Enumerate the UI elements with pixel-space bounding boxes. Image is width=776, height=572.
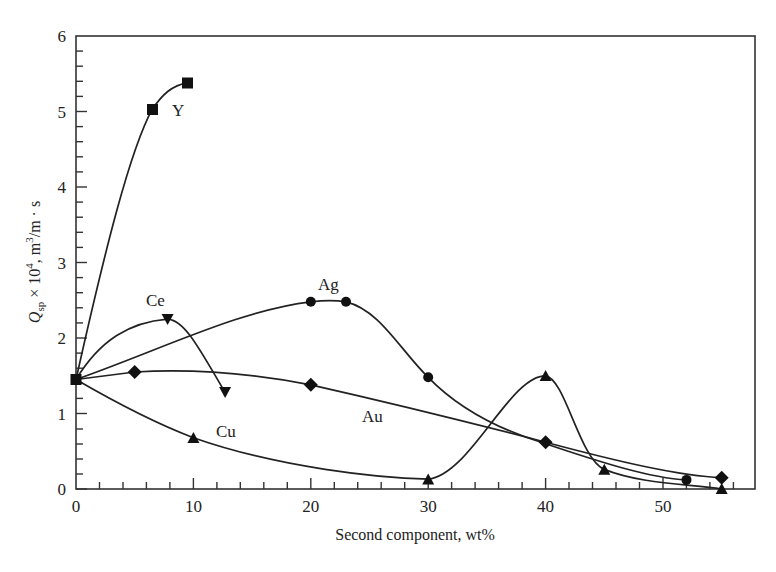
svg-text:20: 20 bbox=[302, 497, 319, 516]
ag-circle-marker bbox=[341, 297, 351, 307]
series-ce-curve bbox=[76, 319, 225, 392]
series-au-curve bbox=[76, 371, 722, 478]
ag-circle-marker bbox=[423, 372, 433, 382]
cu-triangle-up-marker bbox=[187, 432, 199, 443]
start-point-square-marker bbox=[71, 374, 82, 385]
chart-figure: 0 1 2 3 4 5 6 0 10 20 30 40 50 Second co… bbox=[0, 0, 776, 572]
series-y-curve bbox=[76, 83, 188, 380]
svg-text:Qsp × 104, m3/m · s: Qsp × 104, m3/m · s bbox=[23, 201, 46, 323]
svg-text:6: 6 bbox=[58, 27, 67, 46]
svg-text:30: 30 bbox=[420, 497, 437, 516]
series-ag-curve bbox=[76, 300, 687, 479]
au-diamond-marker bbox=[715, 471, 729, 485]
y-axis bbox=[76, 51, 87, 489]
au-diamond-marker bbox=[128, 365, 142, 379]
y-square-marker bbox=[182, 78, 193, 89]
label-ag: Ag bbox=[318, 275, 339, 294]
svg-text:4: 4 bbox=[58, 178, 67, 197]
series-labels: Y Ce Ag Au Cu bbox=[146, 101, 383, 441]
label-cu: Cu bbox=[216, 422, 236, 441]
svg-text:40: 40 bbox=[537, 497, 554, 516]
y-square-marker bbox=[147, 104, 158, 115]
x-tick-labels: 0 10 20 30 40 50 bbox=[72, 497, 672, 516]
cu-triangle-up-marker bbox=[598, 464, 610, 475]
y-axis-title: Qsp × 104, m3/m · s bbox=[23, 201, 46, 323]
x-axis-title: Second component, wt% bbox=[335, 526, 495, 544]
label-au: Au bbox=[362, 407, 383, 426]
svg-text:2: 2 bbox=[58, 329, 67, 348]
series-markers bbox=[71, 78, 729, 495]
ce-triangle-down-marker bbox=[219, 387, 231, 398]
series-cu-curve bbox=[76, 376, 722, 489]
label-ce: Ce bbox=[146, 291, 165, 310]
svg-text:10: 10 bbox=[185, 497, 202, 516]
ag-circle-marker bbox=[682, 475, 692, 485]
au-diamond-marker bbox=[539, 435, 553, 449]
svg-text:0: 0 bbox=[72, 497, 81, 516]
au-diamond-marker bbox=[304, 378, 318, 392]
svg-text:1: 1 bbox=[58, 405, 67, 424]
svg-text:3: 3 bbox=[58, 254, 67, 273]
series-curves bbox=[76, 83, 722, 489]
y-tick-labels: 0 1 2 3 4 5 6 bbox=[58, 27, 67, 499]
svg-text:50: 50 bbox=[655, 497, 672, 516]
label-y: Y bbox=[172, 101, 184, 120]
svg-text:5: 5 bbox=[58, 103, 67, 122]
svg-text:0: 0 bbox=[58, 480, 67, 499]
ag-circle-marker bbox=[306, 297, 316, 307]
